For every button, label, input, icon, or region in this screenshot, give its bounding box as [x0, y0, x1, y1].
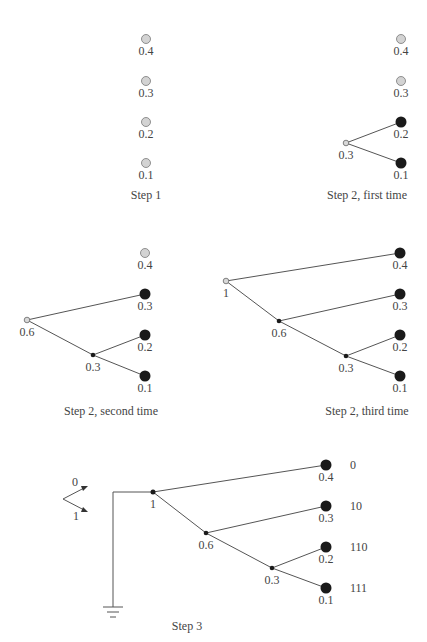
leaf-node [321, 501, 332, 512]
legend-down-label: 1 [73, 509, 79, 523]
leaf-node [321, 460, 332, 471]
leaf-node-merged [395, 289, 406, 300]
tree-edge [226, 253, 400, 281]
leaf-node-unmerged [397, 35, 406, 44]
leaf-label: 0.2 [139, 127, 154, 141]
leaf-node-unmerged [142, 159, 151, 168]
leaf-node-unmerged [142, 77, 151, 86]
node-label: 0.6 [199, 538, 214, 552]
leaf-label: 0.1 [139, 168, 154, 182]
tree-edge [27, 320, 93, 355]
tree-edge [226, 281, 279, 321]
leaf-node-merged [395, 371, 406, 382]
tree-edge [206, 506, 326, 533]
code-label: 111 [350, 581, 367, 595]
leaf-label: 0.3 [139, 86, 154, 100]
internal-node [277, 319, 282, 324]
leaf-node-unmerged [142, 35, 151, 44]
leaf-label: 0.2 [319, 552, 334, 566]
panel-caption: Step 1 [131, 188, 161, 202]
leaf-node-merged [395, 330, 406, 341]
leaf-node-merged [395, 248, 406, 259]
ground-wire [113, 492, 153, 607]
tree-edge [153, 492, 206, 533]
leaf-node-unmerged [397, 77, 406, 86]
leaf-label: 0.3 [394, 86, 409, 100]
leaf-node-unmerged [141, 249, 150, 258]
leaf-label: 0.1 [138, 381, 153, 395]
node-label: 0.3 [339, 148, 354, 162]
leaf-node-merged [396, 117, 407, 128]
node-label: 0.3 [86, 360, 101, 374]
panel-step2-second: 0.4 0.3 0.2 0.1 0.6 0.3 Step 2, second t… [20, 249, 158, 419]
arrowhead-down-icon [81, 507, 88, 512]
leaf-label: 0.3 [138, 299, 153, 313]
leaf-node-merged [396, 158, 407, 169]
legend-arrows: 0 1 [63, 475, 88, 523]
leaf-node-merged [140, 330, 151, 341]
code-label: 110 [350, 540, 368, 554]
leaf-node [321, 583, 332, 594]
root-node [24, 317, 30, 323]
code-label: 0 [350, 458, 356, 472]
panel-step3: 0 1 0.4 0.3 0.2 0.1 0 10 110 111 1 0.6 [63, 458, 368, 633]
root-node [223, 278, 229, 284]
leaf-label: 0.2 [394, 127, 409, 141]
tree-edge [153, 465, 326, 492]
tree-edge [206, 533, 272, 568]
panel-step2-first: 0.4 0.3 0.2 0.1 0.3 Step 2, first time [327, 35, 409, 203]
leaf-label: 0.3 [393, 299, 408, 313]
leaf-label: 0.4 [394, 44, 409, 58]
panel-step2-third: 0.4 0.3 0.2 0.1 1 0.6 0.3 Step 2, third … [223, 248, 409, 419]
root-node [151, 490, 156, 495]
tree-edge [279, 321, 346, 356]
tree-edge [346, 143, 401, 163]
leaf-node-merged [140, 371, 151, 382]
leaf-label: 0.4 [393, 258, 408, 272]
internal-node [91, 353, 96, 358]
internal-node [270, 566, 275, 571]
root-node [343, 140, 349, 146]
leaf-label: 0.4 [319, 470, 334, 484]
leaf-node [321, 542, 332, 553]
leaf-label: 0.3 [319, 511, 334, 525]
internal-node [344, 354, 349, 359]
node-label: 0.6 [272, 326, 287, 340]
leaf-label: 0.2 [138, 340, 153, 354]
tree-edge [93, 355, 145, 376]
panel-caption: Step 3 [172, 619, 202, 633]
leaf-label: 0.1 [319, 593, 334, 607]
node-label: 1 [150, 497, 156, 511]
node-label: 0.6 [20, 325, 35, 339]
leaf-node-unmerged [142, 118, 151, 127]
legend-up-label: 0 [72, 475, 78, 489]
leaf-node-merged [140, 289, 151, 300]
node-label: 0.3 [339, 361, 354, 375]
node-label: 0.3 [265, 573, 280, 587]
panel-caption: Step 2, third time [325, 404, 408, 418]
panel-caption: Step 2, second time [64, 404, 158, 418]
internal-node [204, 531, 209, 536]
huffman-diagram: 0.4 0.3 0.2 0.1 Step 1 0.4 0.3 0.2 0.1 0… [0, 0, 427, 642]
leaf-label: 0.4 [139, 44, 154, 58]
leaf-label: 0.1 [393, 381, 408, 395]
code-label: 10 [350, 499, 362, 513]
tree-edge [346, 356, 400, 376]
panel-step1: 0.4 0.3 0.2 0.1 Step 1 [131, 35, 161, 203]
tree-edge [272, 568, 326, 588]
leaf-label: 0.4 [138, 258, 153, 272]
tree-edge [27, 294, 145, 320]
leaf-label: 0.2 [393, 340, 408, 354]
arrowhead-up-icon [81, 486, 88, 491]
ground-connection [103, 492, 153, 617]
panel-caption: Step 2, first time [327, 188, 407, 202]
leaf-label: 0.1 [394, 168, 409, 182]
node-label: 1 [223, 286, 229, 300]
tree-edge [279, 294, 400, 321]
